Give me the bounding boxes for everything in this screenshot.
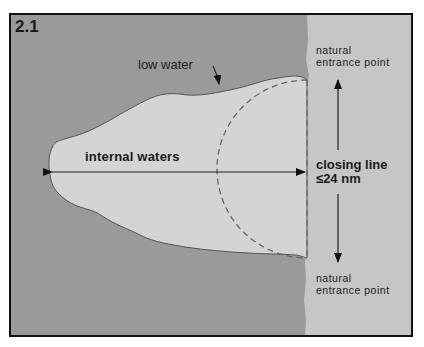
- closing-line-text: closing line: [316, 158, 388, 172]
- natural-entrance-point-top-label: natural entrance point: [316, 44, 396, 68]
- low-water-label: low water: [138, 58, 193, 71]
- nep-bottom-text: natural entrance point: [316, 272, 390, 296]
- natural-entrance-point-bottom-label: natural entrance point: [316, 272, 396, 296]
- internal-waters-label: internal waters: [85, 150, 180, 163]
- figure-number: 2.1: [15, 18, 39, 35]
- nep-top-text: natural entrance point: [316, 44, 390, 68]
- closing-line-limit: ≤24 nm: [316, 172, 388, 186]
- closing-line-label: closing line ≤24 nm: [316, 158, 388, 186]
